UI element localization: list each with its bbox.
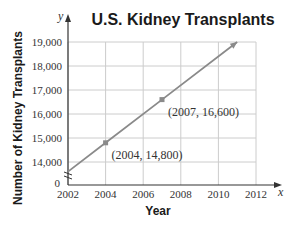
kidney-transplants-chart: U.S. Kidney Transplants 19,00018,00017,0…: [0, 0, 297, 233]
y-origin-label: 0: [55, 177, 61, 189]
y-axis-title: Number of Kidney Transplants: [11, 31, 25, 205]
x-axis-title: Year: [145, 204, 171, 218]
chart-title: U.S. Kidney Transplants: [91, 11, 274, 28]
x-tick-label: 2010: [207, 188, 230, 200]
data-point-marker: [160, 97, 165, 102]
data-point-label: (2004, 14,800): [112, 148, 183, 162]
y-axis-arrow-icon: [65, 14, 71, 22]
y-tick-label: 17,000: [32, 84, 63, 96]
x-tick-label: 2012: [245, 188, 267, 200]
data-point-label: (2007, 16,600): [168, 105, 239, 119]
y-tick-label: 15,000: [32, 132, 63, 144]
x-tick-label: 2006: [132, 188, 155, 200]
data-point-marker: [103, 140, 108, 145]
y-tick-label: 16,000: [32, 108, 63, 120]
y-tick-label: 18,000: [32, 60, 63, 72]
x-tick-label: 2004: [95, 188, 118, 200]
y-tick-label: 19,000: [32, 36, 63, 48]
y-tick-label: 14,000: [32, 156, 63, 168]
x-tick-labels: 200220042006200820102012: [57, 188, 267, 200]
x-tick-label: 2002: [57, 188, 79, 200]
y-axis-variable: y: [57, 9, 64, 23]
x-tick-label: 2008: [170, 188, 193, 200]
x-axis-variable: x: [277, 185, 284, 199]
y-tick-labels: 19,00018,00017,00016,00015,00014,000: [32, 36, 63, 168]
